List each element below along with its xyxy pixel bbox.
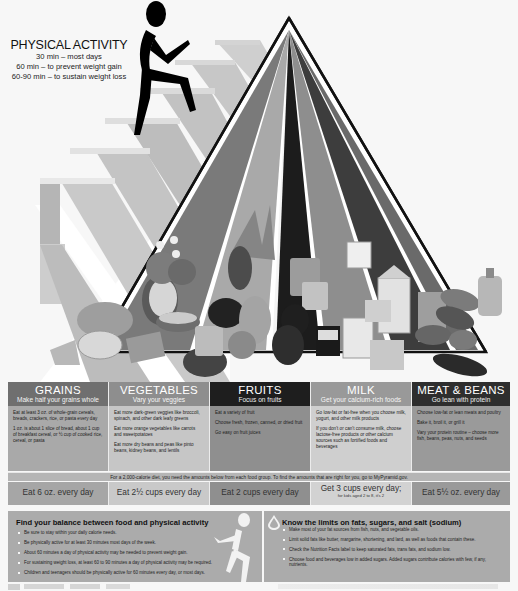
column-body: Eat at least 3 oz. of whole-grain cereal…: [8, 406, 108, 471]
group-name: VEGETABLES: [109, 384, 209, 396]
limits-panel: Know the limits on fats, sugars, and sal…: [264, 511, 510, 582]
group-tip: 1 oz. is about 1 slice of bread, about 1…: [13, 426, 103, 444]
group-name: GRAINS: [8, 384, 108, 396]
limits-title: Know the limits on fats, sugars, and sal…: [282, 518, 461, 527]
group-tagline: Make half your grains whole: [8, 396, 108, 404]
bullet-item: Check the Nutrition Facts label to keep …: [283, 547, 503, 552]
bullet-item: Be sure to stay within your daily calori…: [18, 528, 248, 538]
group-tagline: Go lean with protein: [412, 396, 510, 404]
activity-guideline: 60 min – to prevent weight gain: [4, 62, 134, 72]
column-header: FRUITS Focus on fruits: [210, 382, 310, 406]
oil-drop-icon: [268, 515, 280, 530]
serving-milk-note: for kids aged 2 to 8, it's 2: [311, 493, 411, 498]
bullet-item: Choose food and beverages low in added s…: [283, 557, 503, 568]
serving-milk: Get 3 cups every day; for kids aged 2 to…: [311, 482, 412, 505]
balance-title: Find your balance between food and physi…: [16, 518, 208, 527]
group-tip: Vary your protein routine – choose more …: [417, 430, 505, 442]
column-body: Go low-fat or fat-free when you choose m…: [311, 406, 411, 471]
bullet-item: For sustaining weight loss, at least 60 …: [18, 558, 248, 568]
column-header: MEAT & BEANS Go lean with protein: [412, 382, 510, 406]
balance-panel: Find your balance between food and physi…: [8, 511, 262, 582]
bullet-item: Make most of your fat sources from fish,…: [283, 527, 503, 532]
group-tip: Eat at least 3 oz. of whole-grain cereal…: [13, 410, 103, 422]
limits-bullets: Make most of your fat sources from fish,…: [283, 527, 503, 572]
group-tip: Go low-fat or fat-free when you choose m…: [316, 410, 406, 422]
group-tip: Eat a variety of fruit: [215, 410, 305, 416]
serving-grains: Eat 6 oz. every day: [8, 482, 109, 505]
column-body: Eat a variety of fruit Choose fresh, fro…: [210, 406, 310, 471]
column-grains: GRAINS Make half your grains whole Eat a…: [8, 382, 109, 471]
column-meat-beans: MEAT & BEANS Go lean with protein Choose…: [412, 382, 510, 471]
bullet-item: Limit solid fats like butter, margarine,…: [283, 537, 503, 542]
activity-guideline: 60-90 min – to sustain weight loss: [4, 72, 134, 82]
serving-fruits: Eat 2 cups every day: [210, 482, 311, 505]
physical-activity-title: PHYSICAL ACTIVITY: [4, 38, 134, 52]
calorie-banner: For a 2,000-calorie diet, you need the a…: [8, 472, 510, 481]
group-tip: If you don't or can't consume milk, choo…: [316, 426, 406, 450]
group-tip: Choose low-fat or lean meats and poultry: [417, 410, 505, 416]
column-header: VEGETABLES Vary your veggies: [109, 382, 209, 406]
column-milk: MILK Get your calcium-rich foods Go low-…: [311, 382, 412, 471]
footer-faint-text: [278, 584, 498, 589]
column-body: Eat more dark-green veggies like broccol…: [109, 406, 209, 471]
serving-vegetables: Eat 2½ cups every day: [109, 482, 210, 505]
group-tip: Go easy on fruit juices: [215, 430, 305, 436]
group-tip: Choose fresh, frozen, canned, or dried f…: [215, 420, 305, 426]
group-tip: Eat more orange vegetables like carrots …: [114, 426, 204, 438]
group-tagline: Focus on fruits: [210, 396, 310, 404]
food-group-columns: GRAINS Make half your grains whole Eat a…: [8, 382, 510, 471]
activity-guideline: 30 min – most days: [4, 52, 134, 62]
balance-bullets: Be sure to stay within your daily calori…: [18, 528, 248, 578]
daily-servings-row: Eat 6 oz. every day Eat 2½ cups every da…: [8, 482, 510, 505]
column-header: MILK Get your calcium-rich foods: [311, 382, 411, 406]
group-name: FRUITS: [210, 384, 310, 396]
bullet-item: About 60 minutes a day of physical activ…: [18, 548, 248, 558]
column-fruits: FRUITS Focus on fruits Eat a variety of …: [210, 382, 311, 471]
column-body: Choose low-fat or lean meats and poultry…: [412, 406, 510, 471]
column-header: GRAINS Make half your grains whole: [8, 382, 108, 406]
group-tip: Eat more dry beans and peas like pinto b…: [114, 442, 204, 454]
physical-activity-callout: PHYSICAL ACTIVITY 30 min – most days 60 …: [4, 38, 134, 82]
group-tagline: Get your calcium-rich foods: [311, 396, 411, 404]
group-name: MEAT & BEANS: [412, 384, 510, 396]
group-tip: Eat more dark-green veggies like broccol…: [114, 410, 204, 422]
column-vegetables: VEGETABLES Vary your veggies Eat more da…: [109, 382, 210, 471]
bullet-item: Be physically active for at least 30 min…: [18, 538, 248, 548]
pyramid-illustration: PHYSICAL ACTIVITY 30 min – most days 60 …: [0, 0, 518, 382]
serving-meat-beans: Eat 5½ oz. every day: [412, 482, 510, 505]
bullet-item: Children and teenagers should be physica…: [18, 568, 248, 578]
group-name: MILK: [311, 384, 411, 396]
serving-milk-text: Get 3 cups every day;: [321, 483, 402, 493]
stair-climber-icon: [128, 0, 218, 140]
group-tagline: Vary your veggies: [109, 396, 209, 404]
group-tip: Bake it, broil it, or grill it: [417, 420, 505, 426]
footer-logos-icon: [8, 582, 168, 591]
